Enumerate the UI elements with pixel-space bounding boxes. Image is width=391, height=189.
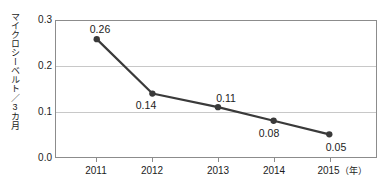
x-tick-label-2013: 2013: [207, 165, 229, 176]
data-point-2015: [326, 131, 332, 137]
y-tick-label-0.3: 0.3: [26, 15, 52, 25]
x-tick-label-2015: 2015（年）: [317, 165, 366, 177]
y-axis-tick-labels: 0.3 0.2 0.1 0.0: [22, 0, 52, 189]
y-tick-label-0.0: 0.0: [26, 153, 52, 163]
x-tick-mark-2015: [330, 158, 331, 162]
x-axis: 2011 2012 2013 2014 2015（年）: [55, 158, 377, 189]
data-point-2011: [94, 36, 100, 42]
data-point-2014: [270, 118, 276, 124]
plot-inner: 0.26 0.14 0.11 0.08 0.05: [56, 21, 376, 157]
x-tick-mark-2014: [274, 158, 275, 162]
data-label-2011: 0.26: [90, 24, 110, 35]
y-axis-title: マイクロシーベルト／3カ月: [4, 12, 20, 140]
data-point-2012: [149, 90, 155, 96]
x-tick-label-2012: 2012: [141, 165, 163, 176]
y-tick-label-0.2: 0.2: [26, 61, 52, 71]
data-label-2015: 0.05: [326, 142, 346, 153]
x-axis-unit: （年）: [340, 166, 367, 176]
series-layer: [56, 21, 376, 157]
x-tick-label-2015-year: 2015: [317, 165, 339, 176]
x-tick-mark-2011: [96, 158, 97, 162]
series-line-path: [97, 39, 330, 134]
x-tick-label-2011: 2011: [85, 165, 107, 176]
line-chart: マイクロシーベルト／3カ月 0.3 0.2 0.1 0.0 0.26 0.14 …: [0, 0, 391, 189]
x-tick-label-2014: 2014: [263, 165, 285, 176]
data-label-2012: 0.14: [136, 100, 156, 111]
data-label-2013: 0.11: [216, 93, 236, 104]
y-tick-label-0.1: 0.1: [26, 107, 52, 117]
data-point-2013: [215, 104, 221, 110]
x-tick-mark-2013: [218, 158, 219, 162]
x-tick-mark-2012: [152, 158, 153, 162]
plot-area: 0.26 0.14 0.11 0.08 0.05: [55, 20, 377, 158]
data-label-2014: 0.08: [259, 128, 279, 139]
